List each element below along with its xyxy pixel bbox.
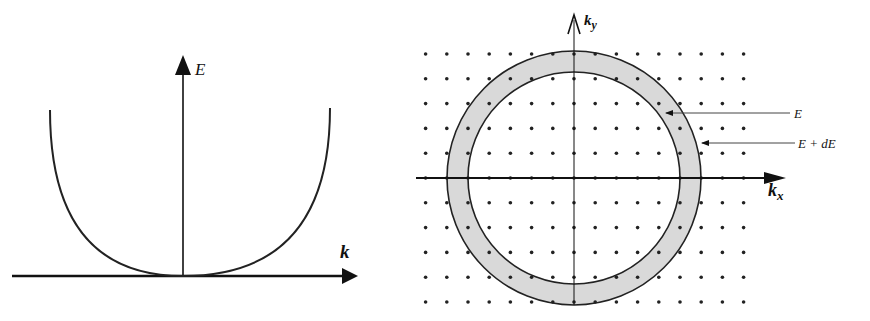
k-axis-arrow-icon <box>342 268 358 284</box>
k-space-diagram: E E + dE kx ky <box>416 12 836 305</box>
kx-label: kx <box>768 180 784 203</box>
k-axis-label: k <box>340 241 350 262</box>
figure: E k E E + dE kx ky <box>0 0 870 321</box>
ky-label: ky <box>584 12 598 32</box>
e-axis-arrow-icon <box>175 55 191 75</box>
e-axis-label: E <box>194 60 206 79</box>
parabola-curve <box>50 108 330 276</box>
e-plus-de-label: E + dE <box>797 136 836 151</box>
e-label: E <box>793 106 802 121</box>
dispersion-diagram: E k <box>12 55 358 284</box>
